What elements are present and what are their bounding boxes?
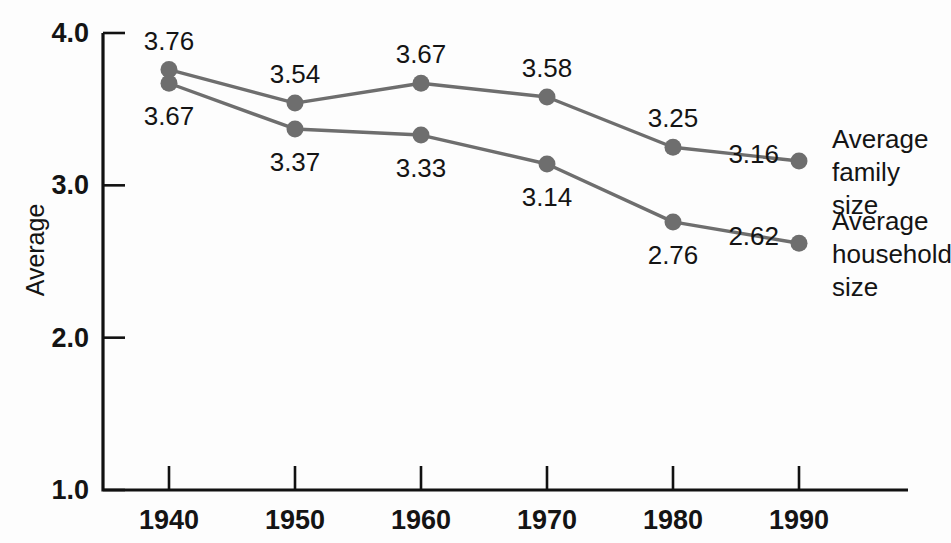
y-tick-label: 2.0	[51, 323, 89, 353]
data-value-label: 3.25	[648, 103, 699, 133]
data-point-marker	[791, 152, 808, 169]
data-value-label: 3.67	[396, 39, 447, 69]
data-value-label: 3.76	[144, 26, 195, 56]
data-value-label: 3.58	[522, 53, 573, 83]
legend-label-line: size	[832, 272, 878, 302]
data-point-marker	[791, 235, 808, 252]
data-point-marker	[539, 156, 556, 173]
chart-figure: 1.02.03.04.0 194019501960197019801990 3.…	[0, 0, 951, 543]
x-tick-label: 1990	[769, 505, 829, 535]
data-value-label: 3.16	[728, 139, 779, 169]
data-point-marker	[665, 139, 682, 156]
x-tick-label: 1970	[517, 505, 577, 535]
x-axis-ticks: 194019501960197019801990	[139, 466, 829, 535]
legend-label-line: Average	[832, 124, 928, 154]
x-tick-label: 1940	[139, 505, 199, 535]
data-value-label: 3.54	[270, 59, 321, 89]
series-line-2	[169, 83, 799, 243]
legend-label-line: Average	[832, 206, 928, 236]
line-chart-canvas: 1.02.03.04.0 194019501960197019801990 3.…	[0, 0, 951, 543]
y-axis-ticks: 1.02.03.04.0	[51, 18, 125, 505]
data-value-label: 2.62	[728, 221, 779, 251]
data-value-label: 3.67	[144, 101, 195, 131]
series-legend: AveragefamilysizeAveragehouseholdsize	[832, 124, 951, 302]
data-value-label: 3.33	[396, 153, 447, 183]
data-point-marker	[413, 127, 430, 144]
data-value-label: 3.14	[522, 182, 573, 212]
x-tick-label: 1980	[643, 505, 703, 535]
data-value-label: 3.37	[270, 147, 321, 177]
data-point-marker	[287, 95, 304, 112]
data-point-marker	[665, 213, 682, 230]
x-tick-label: 1950	[265, 505, 325, 535]
legend-entry-2: Averagehouseholdsize	[832, 206, 951, 302]
data-point-marker	[287, 120, 304, 137]
data-point-marker	[161, 75, 178, 92]
y-tick-label: 4.0	[51, 18, 89, 48]
x-tick-label: 1960	[391, 505, 451, 535]
data-value-label: 2.76	[648, 240, 699, 270]
legend-label-line: family	[832, 157, 900, 187]
data-series	[161, 61, 808, 252]
y-tick-label: 1.0	[51, 475, 89, 505]
series-line-1	[169, 70, 799, 161]
data-point-marker	[539, 88, 556, 105]
y-tick-label: 3.0	[51, 170, 89, 200]
legend-label-line: household	[832, 239, 951, 269]
y-axis-title-label: Average	[21, 204, 49, 297]
y-axis-title: Average	[21, 204, 49, 297]
data-point-marker	[413, 75, 430, 92]
